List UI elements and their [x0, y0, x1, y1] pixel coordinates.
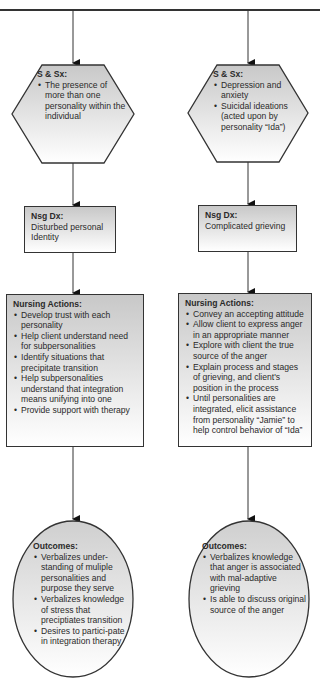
action-item: Provide support with therapy: [21, 405, 137, 416]
outcomes-oval-left: Outcomes: Verbalizes under-standing of m…: [12, 520, 134, 678]
outcomes-title: Outcomes:: [33, 541, 133, 552]
outcome-item: Desires to partici-pate in integration t…: [41, 626, 133, 647]
symptoms-title: S & Sx:: [37, 69, 127, 80]
action-item: Help subpersonalities understand that in…: [21, 373, 137, 405]
action-item: Explain process and stages of grieving, …: [193, 362, 305, 394]
diagnosis-title: Nsg Dx:: [205, 210, 290, 221]
symptoms-title: S & Sx:: [213, 69, 307, 80]
diagnosis-text: Complicated grieving: [205, 221, 285, 231]
outcomes-title: Outcomes:: [202, 541, 306, 552]
diagnosis-box-left: Nsg Dx: Disturbed personal Identity: [24, 206, 116, 253]
action-item: Until personalities are integrated, elic…: [193, 393, 305, 435]
outcome-item: Verbalizes knowledge that anger is assoc…: [210, 552, 306, 594]
action-item: Develop trust with each personality: [21, 310, 137, 331]
outcome-item: Verbalizes under-standing of muliple per…: [41, 552, 133, 594]
symptom-item: The presence of more than one personalit…: [45, 80, 127, 122]
actions-title: Nursing Actions:: [13, 299, 137, 310]
symptoms-hexagon-right: S & Sx: Depression and anxiety Suicidal …: [187, 64, 309, 163]
outcomes-oval-right: Outcomes: Verbalizes knowledge that ange…: [188, 520, 310, 678]
nursing-actions-box-left: Nursing Actions: Develop trust with each…: [6, 294, 144, 447]
diagnosis-box-right: Nsg Dx: Complicated grieving: [198, 205, 297, 252]
nursing-actions-box-right: Nursing Actions: Convey an accepting att…: [178, 293, 312, 447]
symptom-item: Suicidal ideations (acted upon by person…: [221, 101, 307, 133]
actions-title: Nursing Actions:: [185, 298, 305, 309]
outcome-item: Verbalizes knowledge of stress that prec…: [41, 594, 133, 626]
action-item: Explore with client the true source of t…: [193, 340, 305, 361]
action-item: Convey an accepting attitude: [193, 309, 305, 320]
action-item: Help client understand need for subperso…: [21, 331, 137, 352]
action-item: Identify situations that precipitate tra…: [21, 352, 137, 373]
symptom-item: Depression and anxiety: [221, 80, 307, 101]
outcome-item: Is able to discuss original source of th…: [210, 594, 306, 615]
action-item: Allow client to express anger in an appr…: [193, 319, 305, 340]
symptoms-hexagon-left: S & Sx: The presence of more than one pe…: [11, 64, 135, 164]
diagnosis-title: Nsg Dx:: [31, 211, 109, 222]
diagnosis-text: Disturbed personal Identity: [31, 222, 103, 243]
